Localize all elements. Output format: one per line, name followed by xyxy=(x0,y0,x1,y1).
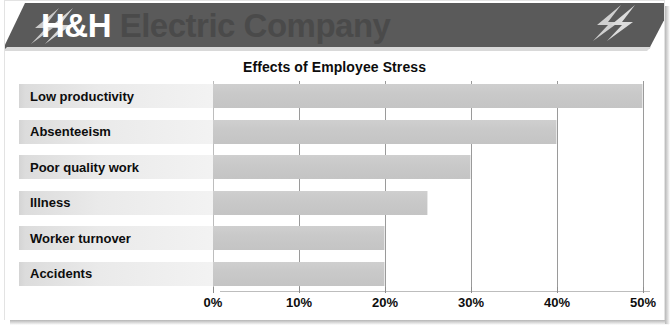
chart-row: Worker turnover xyxy=(5,226,664,250)
category-label: Absenteeism xyxy=(19,120,220,144)
x-axis-line xyxy=(220,291,650,292)
chart-row: Poor quality work xyxy=(5,155,664,179)
bar xyxy=(213,226,385,250)
x-tick xyxy=(643,287,644,293)
x-tick xyxy=(557,287,558,293)
screenshot-root: H&H Electric Company Effects of Employee… xyxy=(0,0,672,332)
chart-row: Illness xyxy=(5,191,664,215)
x-tick-label: 40% xyxy=(522,295,592,310)
bar xyxy=(213,191,428,215)
category-label: Accidents xyxy=(19,262,220,286)
chart-row: Accidents xyxy=(5,262,664,286)
category-label: Illness xyxy=(19,191,220,215)
bar xyxy=(213,155,471,179)
brand-banner: H&H Electric Company xyxy=(5,1,664,55)
x-tick-label: 30% xyxy=(436,295,506,310)
chart-row: Low productivity xyxy=(5,84,664,108)
banner-bottom-edge xyxy=(5,47,664,51)
category-label: Poor quality work xyxy=(19,155,220,179)
chart-title: Effects of Employee Stress xyxy=(5,59,664,75)
banner-background xyxy=(5,3,664,49)
x-tick-label: 50% xyxy=(608,295,672,310)
x-tick xyxy=(471,287,472,293)
x-tick-label: 20% xyxy=(350,295,420,310)
x-tick-label: 10% xyxy=(264,295,334,310)
gridline xyxy=(299,81,300,289)
gridline xyxy=(385,81,386,289)
x-tick xyxy=(213,287,214,293)
bar xyxy=(213,84,643,108)
category-label: Worker turnover xyxy=(19,226,220,250)
gridline xyxy=(213,81,214,289)
bar xyxy=(213,120,557,144)
gridline xyxy=(643,81,644,289)
x-tick-label: 0% xyxy=(178,295,248,310)
chart-row: Absenteeism xyxy=(5,120,664,144)
plot-area: Low productivityAbsenteeismPoor quality … xyxy=(5,79,664,291)
card-shadow-bottom xyxy=(10,320,669,325)
gridline xyxy=(557,81,558,289)
card-shadow-right xyxy=(665,6,670,324)
bar xyxy=(213,262,385,286)
bar-chart: Effects of Employee Stress Low productiv… xyxy=(5,55,664,320)
category-label: Low productivity xyxy=(19,84,220,108)
x-tick xyxy=(385,287,386,293)
x-tick xyxy=(299,287,300,293)
gridline xyxy=(471,81,472,289)
